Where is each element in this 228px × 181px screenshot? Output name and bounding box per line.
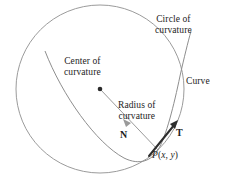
circle-of-curvature-figure: Circle of curvature Center of curvature … — [0, 0, 228, 181]
label-curve: Curve — [186, 76, 210, 87]
label-center-of-curvature-line1: Center of — [64, 56, 101, 67]
center-of-curvature-dot — [98, 87, 103, 92]
label-normal-vector: N — [120, 129, 127, 140]
label-point-p-close: ) — [175, 150, 178, 160]
label-circle-of-curvature: Circle of curvature — [155, 14, 192, 36]
label-center-of-curvature: Center of curvature — [64, 56, 101, 78]
label-radius-of-curvature-line1: Radius of — [118, 100, 156, 111]
label-radius-of-curvature: Radius of curvature — [118, 100, 156, 122]
label-point-p: P(x, y) — [152, 150, 178, 161]
label-tangent-vector: T — [176, 127, 183, 138]
label-circle-of-curvature-line2: curvature — [155, 25, 192, 36]
label-circle-of-curvature-line1: Circle of — [155, 14, 192, 25]
label-radius-of-curvature-line2: curvature — [118, 111, 156, 122]
label-center-of-curvature-line2: curvature — [64, 67, 101, 78]
figure-canvas — [0, 0, 228, 181]
curve-path — [45, 31, 191, 162]
